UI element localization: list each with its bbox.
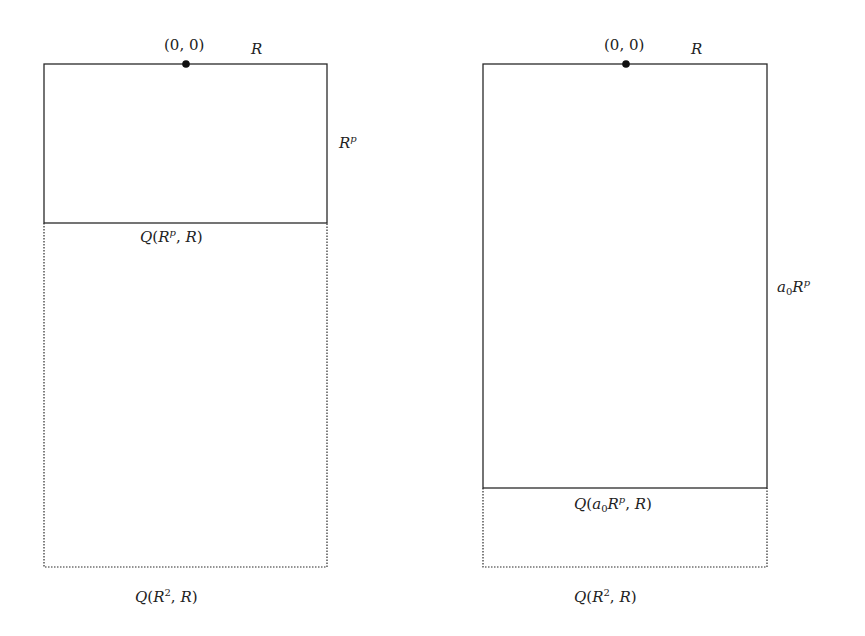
- left-inner-label: Q(Rp, R): [140, 230, 203, 245]
- left-origin-dot: [182, 60, 190, 68]
- left-side-label: Rp: [339, 136, 357, 151]
- right-solid-rect: [483, 64, 767, 488]
- left-solid-rect: [44, 64, 327, 223]
- right-outer-label: Q(R2, R): [574, 590, 637, 605]
- right-inner-label: Q(a0Rp, R): [574, 497, 652, 514]
- left-panel: [44, 60, 327, 567]
- left-top-label: R: [251, 42, 262, 57]
- diagram-canvas: [0, 0, 865, 636]
- right-origin-dot: [622, 60, 630, 68]
- right-top-label: R: [691, 42, 702, 57]
- right-panel: [483, 60, 767, 567]
- right-origin-label: (0, 0): [604, 38, 644, 53]
- left-origin-label: (0, 0): [164, 38, 204, 53]
- right-side-label: a0Rp: [777, 280, 810, 297]
- left-dotted-region: [44, 223, 327, 567]
- left-outer-label: Q(R2, R): [135, 590, 198, 605]
